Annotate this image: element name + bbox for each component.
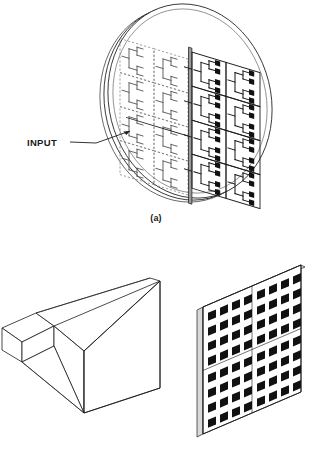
feed-spine bbox=[189, 47, 192, 204]
array-panel bbox=[197, 265, 305, 437]
figure-b-svg bbox=[0, 238, 312, 473]
panel-edge-left bbox=[197, 307, 203, 437]
input-label-stem bbox=[70, 142, 96, 143]
pyramidal-horn-antenna bbox=[2, 278, 160, 413]
input-label: INPUT bbox=[27, 137, 57, 148]
figure-a-svg: INPUT bbox=[0, 0, 312, 238]
caption-a: (a) bbox=[0, 213, 312, 223]
figure-a-patch-array-disk: INPUT (a) bbox=[0, 0, 312, 238]
figure-page: INPUT (a) bbox=[0, 0, 312, 473]
figure-b-horn-and-array: (b) bbox=[0, 238, 312, 473]
